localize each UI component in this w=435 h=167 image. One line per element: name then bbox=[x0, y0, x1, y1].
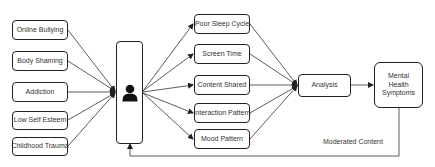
moderated-content-label: Moderated Content bbox=[323, 138, 383, 145]
factor-label: Mood Pattern bbox=[201, 135, 243, 144]
factor-content-shared: Content Shared bbox=[194, 75, 250, 95]
analysis-label: Analysis bbox=[311, 81, 337, 90]
factor-label: Interaction Pattern bbox=[193, 109, 250, 118]
input-low-self-esteem: Low Self Esteem bbox=[12, 111, 68, 130]
input-childhood-trauma: Childhood Trauma bbox=[12, 137, 68, 156]
factor-screen-time: Screen Time bbox=[194, 44, 250, 64]
factor-poor-sleep-cycle: Poor Sleep Cycle bbox=[194, 14, 250, 34]
factor-label: Poor Sleep Cycle bbox=[195, 20, 249, 29]
user-icon bbox=[122, 84, 138, 102]
factor-label: Content Shared bbox=[197, 81, 246, 90]
factor-label: Screen Time bbox=[202, 50, 241, 59]
analysis-node: Analysis bbox=[298, 74, 351, 97]
input-label: Low Self Esteem bbox=[14, 116, 67, 125]
mental-health-symptoms-node: Mental Health Symptoms bbox=[374, 62, 423, 108]
input-label: Online Bullying bbox=[17, 26, 64, 35]
output-label-line: Symptoms bbox=[382, 89, 415, 98]
input-online-bullying: Online Bullying bbox=[12, 20, 68, 40]
output-label-line: Health bbox=[388, 81, 408, 90]
factor-mood-pattern: Mood Pattern bbox=[194, 129, 250, 149]
output-label-line: Mental bbox=[388, 72, 409, 81]
user-node bbox=[116, 41, 143, 144]
input-label: Childhood Trauma bbox=[11, 142, 68, 151]
input-body-shaming: Body Shaming bbox=[12, 51, 68, 71]
input-addiction: Addiction bbox=[12, 82, 68, 102]
input-label: Body Shaming bbox=[17, 57, 63, 66]
factor-interaction-pattern: Interaction Pattern bbox=[194, 103, 250, 123]
input-label: Addiction bbox=[26, 88, 55, 97]
